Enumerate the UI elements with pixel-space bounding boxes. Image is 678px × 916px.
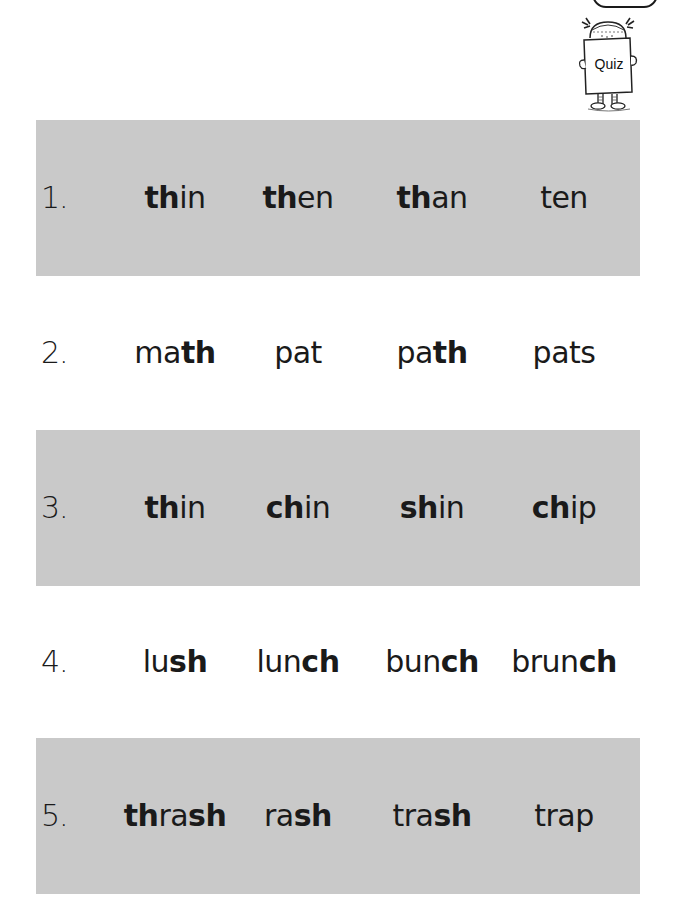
word-option[interactable]: ten <box>540 180 588 215</box>
word-option[interactable]: path <box>396 335 467 370</box>
word-option[interactable]: math <box>134 335 215 370</box>
quiz-mascot: Quiz <box>576 16 646 112</box>
row-number: 3. <box>41 490 68 525</box>
word-option[interactable]: bunch <box>385 644 479 679</box>
word-option[interactable]: shin <box>400 490 465 525</box>
row-number: 2. <box>41 335 68 370</box>
top-label-box <box>592 0 658 8</box>
quiz-row-2: 2. math pat path pats <box>36 275 640 431</box>
word-option[interactable]: thrash <box>124 798 227 833</box>
word-option[interactable]: pats <box>533 335 596 370</box>
word-option[interactable]: thin <box>144 490 205 525</box>
quiz-row-3: 3. thin chin shin chip <box>36 430 640 586</box>
row-number: 4. <box>41 644 68 679</box>
quiz-row-5: 5. thrash rash trash trap <box>36 738 640 894</box>
quiz-row-4: 4. lush lunch bunch brunch <box>36 584 640 740</box>
word-option[interactable]: brunch <box>511 644 617 679</box>
mascot-sign-label: Quiz <box>586 56 632 72</box>
word-option[interactable]: trash <box>392 798 471 833</box>
word-option[interactable]: then <box>262 180 333 215</box>
word-option[interactable]: lush <box>143 644 208 679</box>
row-number: 1. <box>41 180 68 215</box>
word-option[interactable]: trap <box>534 798 594 833</box>
word-option[interactable]: thin <box>144 180 205 215</box>
word-option[interactable]: chip <box>532 490 597 525</box>
word-option[interactable]: chin <box>266 490 331 525</box>
word-option[interactable]: than <box>396 180 467 215</box>
word-option[interactable]: rash <box>264 798 332 833</box>
word-option[interactable]: lunch <box>256 644 339 679</box>
word-option[interactable]: pat <box>274 335 322 370</box>
row-number: 5. <box>41 798 68 833</box>
quiz-row-1: 1. thin then than ten <box>36 120 640 276</box>
